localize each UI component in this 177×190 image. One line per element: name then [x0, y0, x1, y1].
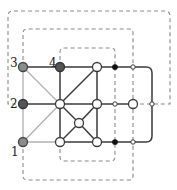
node-g	[113, 65, 117, 69]
label-1: 1	[11, 145, 19, 159]
outer-dashed-loop	[8, 11, 170, 104]
node-j	[131, 65, 135, 69]
node-n3	[19, 63, 28, 72]
inner-dashed-top	[60, 48, 115, 67]
label-3: 3	[10, 56, 18, 70]
node-l	[131, 140, 135, 144]
graph-diagram: 1234	[0, 0, 177, 190]
node-a	[93, 63, 102, 72]
node-h	[113, 102, 117, 106]
dashed-paths	[8, 11, 170, 180]
edge-n1-b	[23, 104, 60, 142]
node-b	[56, 100, 65, 109]
label-4: 4	[49, 56, 57, 70]
node-n1	[19, 138, 28, 147]
node-i	[113, 140, 117, 144]
node-c	[93, 100, 102, 109]
node-e	[93, 138, 102, 147]
node-d	[56, 138, 65, 147]
inner-dashed-bottom	[60, 142, 115, 161]
edge-a-b	[60, 67, 97, 104]
label-2: 2	[10, 97, 18, 111]
node-f	[75, 119, 84, 128]
node-n2	[19, 100, 28, 109]
edge-n3-b	[23, 67, 60, 104]
node-n4	[56, 63, 65, 72]
node-labels: 1234	[10, 56, 57, 159]
node-m	[150, 102, 154, 106]
node-k	[129, 100, 138, 109]
